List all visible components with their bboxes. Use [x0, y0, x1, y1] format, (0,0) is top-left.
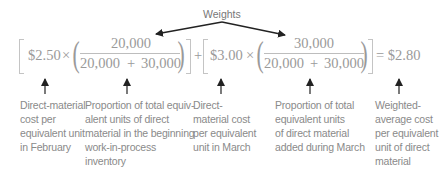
annotation-line: Proportion of total equiv-	[85, 98, 205, 112]
plus-sign: +	[194, 47, 202, 64]
term2-denominator-a: 20,000	[264, 55, 304, 72]
annotation-line: material cost	[193, 112, 273, 126]
annotation-line: Direct-	[193, 98, 273, 112]
annotation-weighted-average: Weighted- average cost per equivalent un…	[375, 98, 441, 168]
term2-cost: $3.00	[210, 47, 243, 64]
left-bracket-2	[203, 39, 208, 74]
annotation-line: equivalent units	[275, 112, 370, 126]
term1-numerator: 20,000	[111, 35, 151, 52]
annotation-march-cost: Direct- material cost per equivalent uni…	[193, 98, 273, 154]
annotation-beginning-wip-proportion: Proportion of total equiv- alent units o…	[85, 98, 205, 168]
annotation-line: work-in-process	[85, 140, 205, 154]
annotation-line: material in the beginning	[85, 126, 205, 140]
equals-result: = $2.80	[376, 47, 420, 64]
annotation-line: average cost	[375, 112, 441, 126]
right-bracket-2	[368, 39, 373, 74]
annotation-march-proportion: Proportion of total equivalent units of …	[275, 98, 370, 154]
annotation-line: per equivalent	[193, 126, 273, 140]
term1-close-paren: )	[177, 36, 184, 72]
annotation-line: unit in March	[193, 140, 273, 154]
term2-open-paren: (	[256, 36, 263, 72]
term2-close-paren: )	[360, 36, 367, 72]
annotation-line: Proportion of total	[275, 98, 370, 112]
annotation-line: material	[375, 154, 441, 168]
term1-denominator-a: 20,000	[80, 55, 120, 72]
annotation-line: Weighted-	[375, 98, 441, 112]
left-bracket-1	[19, 39, 24, 74]
annotation-line: unit of direct	[375, 140, 441, 154]
term1-cost: $2.50	[28, 47, 61, 64]
annotation-line: added during March	[275, 140, 370, 154]
term2-times: ×	[246, 47, 254, 64]
term2-numerator: 30,000	[294, 35, 334, 52]
annotation-line: alent units of direct	[85, 112, 205, 126]
annotation-line: of direct material	[275, 126, 370, 140]
term1-denominator-b: 30,000	[141, 55, 181, 72]
term1-open-paren: (	[72, 36, 79, 72]
term1-times: ×	[62, 47, 70, 64]
term2-fraction-line	[264, 53, 364, 54]
term2-denominator-plus: +	[310, 55, 318, 72]
right-bracket-1	[186, 39, 191, 74]
term1-denominator-plus: +	[127, 55, 135, 72]
annotation-line: inventory	[85, 154, 205, 168]
term2-denominator-b: 30,000	[324, 55, 364, 72]
annotation-line: per equivalent	[375, 126, 441, 140]
term1-fraction-line	[80, 53, 180, 54]
